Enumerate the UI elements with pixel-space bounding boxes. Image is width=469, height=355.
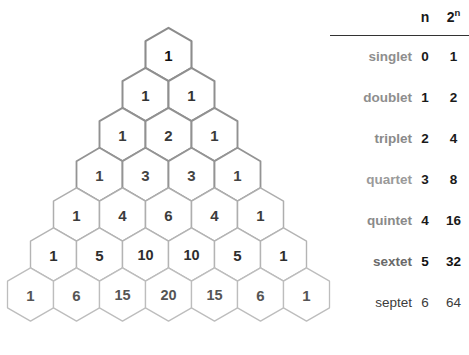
- hex-value-label: 2: [164, 127, 172, 144]
- power-value: 4: [438, 118, 469, 159]
- figure-canvas: 111121133114641151010511615201561 n 2n s…: [0, 0, 469, 355]
- hex-value-label: 4: [118, 207, 127, 224]
- n-value: 1: [412, 77, 438, 118]
- multiplicity-name: septet: [330, 282, 412, 323]
- table-row: triplet24: [330, 118, 469, 159]
- hex-value-label: 1: [187, 87, 195, 104]
- pyramid-row-2: 121: [100, 108, 238, 161]
- power-value: 16: [438, 200, 469, 241]
- header-two-to-the-n: 2n: [438, 0, 469, 34]
- hex-value-label: 10: [137, 247, 153, 263]
- table-row: septet664: [330, 282, 469, 323]
- multiplicity-table: n 2n singlet01doublet12triplet24quartet3…: [330, 0, 469, 323]
- hex-value-label: 1: [49, 247, 57, 264]
- hex-value-label: 1: [210, 127, 218, 144]
- hex-value-label: 1: [302, 287, 310, 304]
- hex-value-label: 1: [118, 127, 126, 144]
- multiplicity-name: quintet: [330, 200, 412, 241]
- multiplicity-table-panel: n 2n singlet01doublet12triplet24quartet3…: [330, 0, 469, 355]
- table-row: doublet12: [330, 77, 469, 118]
- hex-value-label: 15: [114, 287, 130, 303]
- hex-value-label: 5: [95, 247, 103, 264]
- header-row: n 2n: [330, 0, 469, 34]
- n-value: 2: [412, 118, 438, 159]
- power-value: 8: [438, 159, 469, 200]
- table-row: quartet38: [330, 159, 469, 200]
- power-value: 32: [438, 241, 469, 282]
- hex-value-label: 6: [256, 287, 264, 304]
- hex-value-label: 1: [141, 87, 149, 104]
- hex-value-label: 1: [95, 167, 103, 184]
- n-value: 6: [412, 282, 438, 323]
- hex-value-label: 15: [206, 287, 222, 303]
- hex-value-label: 5: [233, 247, 241, 264]
- hex-value-label: 1: [256, 207, 264, 224]
- header-n: n: [412, 0, 438, 34]
- n-value: 3: [412, 159, 438, 200]
- multiplicity-name: singlet: [330, 36, 412, 77]
- hex-value-label: 1: [72, 207, 80, 224]
- power-value: 2: [438, 77, 469, 118]
- power-value: 64: [438, 282, 469, 323]
- n-value: 4: [412, 200, 438, 241]
- hex-value-label: 1: [26, 287, 34, 304]
- table-row: singlet01: [330, 36, 469, 77]
- power-value: 1: [438, 36, 469, 77]
- hex-value-label: 20: [160, 287, 176, 303]
- multiplicity-name: quartet: [330, 159, 412, 200]
- multiplicity-name: sextet: [330, 241, 412, 282]
- hex-value-label: 1: [279, 247, 287, 264]
- table-row: sextet532: [330, 241, 469, 282]
- table-body: singlet01doublet12triplet24quartet38quin…: [330, 36, 469, 323]
- hex-value-label: 3: [187, 167, 195, 184]
- hex-value-label: 6: [72, 287, 80, 304]
- pascal-triangle-hex-pyramid: 111121133114641151010511615201561: [0, 0, 345, 355]
- multiplicity-name: doublet: [330, 77, 412, 118]
- hex-value-label: 10: [183, 247, 199, 263]
- hex-value-label: 4: [210, 207, 219, 224]
- hex-value-label: 1: [233, 167, 241, 184]
- header-blank: [330, 0, 412, 34]
- pyramid-row-4: 14641: [54, 188, 284, 241]
- header-power-exponent: n: [454, 7, 460, 18]
- hex-grid-svg: 111121133114641151010511615201561: [0, 0, 345, 355]
- hex-value-label: 3: [141, 167, 149, 184]
- table-row: quintet416: [330, 200, 469, 241]
- n-value: 0: [412, 36, 438, 77]
- hex-value-label: 6: [164, 207, 172, 224]
- multiplicity-name: triplet: [330, 118, 412, 159]
- hex-value-label: 1: [164, 47, 172, 64]
- table-header: n 2n: [330, 0, 469, 36]
- n-value: 5: [412, 241, 438, 282]
